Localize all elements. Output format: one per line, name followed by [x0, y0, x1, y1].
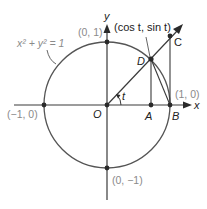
y-axis-label: y [103, 10, 111, 22]
label-angle-t: t [122, 90, 126, 102]
label-O: O [93, 108, 102, 120]
unit-circle-diagram: x² + y² = 1 (0, 1) (0, −1) (−1, 0) (1, 0… [0, 0, 207, 209]
y-axis-arrow-icon [104, 24, 111, 33]
point-O [105, 103, 110, 108]
x-axis-arrow-icon [183, 102, 192, 109]
point-C [168, 34, 173, 39]
ray-OC [107, 30, 178, 105]
label-leader-equation [47, 50, 56, 64]
label-top: (0, 1) [78, 26, 103, 38]
label-bottom: (0, −1) [112, 174, 143, 186]
angle-arc-arrow-icon [116, 94, 121, 99]
point-D [148, 56, 153, 61]
label-D: D [137, 55, 145, 67]
point-A [149, 103, 154, 108]
label-D-coords: (cos t, sin t) [114, 21, 171, 33]
label-left: (−1, 0) [7, 108, 38, 120]
ray-arrow-icon [173, 24, 183, 34]
chord-DB [151, 59, 170, 105]
point-B [168, 103, 173, 108]
label-A: A [144, 110, 152, 122]
label-B: B [172, 110, 179, 122]
x-axis-label: x [193, 99, 200, 111]
equation-label: x² + y² = 1 [16, 37, 64, 49]
point-left [42, 103, 47, 108]
label-leader-D [146, 37, 150, 57]
label-C: C [174, 36, 182, 48]
point-bottom [105, 166, 110, 171]
point-top [105, 40, 110, 45]
